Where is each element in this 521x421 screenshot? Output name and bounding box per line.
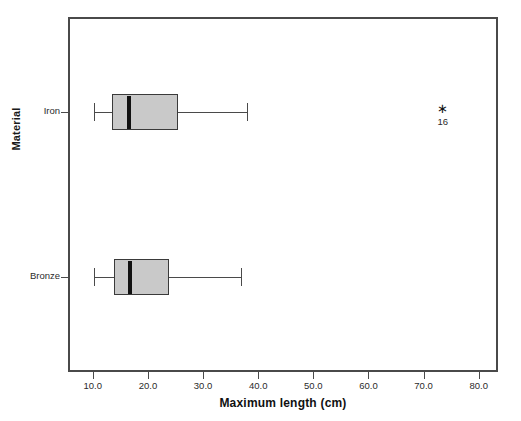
whisker-cap-lower (94, 103, 95, 121)
plot-area (68, 17, 498, 372)
whisker-cap-lower (94, 268, 95, 286)
x-axis-tick-label: 50.0 (293, 380, 333, 391)
whisker-line-upper (169, 277, 241, 278)
x-axis-tick (424, 372, 425, 379)
box-iron (112, 94, 178, 130)
y-axis-tick (61, 277, 68, 278)
x-axis-tick (479, 372, 480, 379)
median-line-bronze (128, 261, 132, 294)
x-axis-tick-label: 60.0 (348, 380, 388, 391)
x-axis-tick (148, 372, 149, 379)
whisker-line-lower (94, 112, 112, 113)
outlier-star-icon: ∗ (433, 104, 453, 113)
whisker-cap-upper (247, 103, 248, 121)
x-axis-tick (368, 372, 369, 379)
x-axis-tick (258, 372, 259, 379)
x-axis-tick-label: 30.0 (183, 380, 223, 391)
x-axis-tick (313, 372, 314, 379)
x-axis-tick-label: 40.0 (238, 380, 278, 391)
x-axis-tick-label: 20.0 (128, 380, 168, 391)
y-axis-title: Material (4, 79, 28, 179)
x-axis-tick (203, 372, 204, 379)
whisker-line-lower (94, 277, 114, 278)
x-axis-tick (93, 372, 94, 379)
whisker-line-upper (178, 112, 247, 113)
whisker-cap-upper (241, 268, 242, 286)
y-axis-tick (61, 112, 68, 113)
x-axis-tick-label: 70.0 (404, 380, 444, 391)
median-line-iron (127, 96, 131, 129)
outlier-case-label: 16 (428, 116, 458, 127)
x-axis-tick-label: 80.0 (459, 380, 499, 391)
y-axis-category-label-bronze: Bronze (0, 270, 60, 281)
boxplot-figure: Material IronBronze 10.020.030.040.050.0… (0, 0, 521, 421)
x-axis-tick-label: 10.0 (73, 380, 113, 391)
x-axis-title: Maximum length (cm) (68, 396, 498, 410)
box-bronze (114, 259, 169, 295)
y-axis-category-label-iron: Iron (0, 105, 60, 116)
